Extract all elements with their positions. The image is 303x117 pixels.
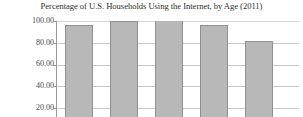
- y-tick-label-100: 100.00: [6, 17, 54, 25]
- bar-5: [245, 41, 273, 117]
- chart-figure: Percentage of U.S. Households Using the …: [0, 0, 303, 117]
- bar-1: [65, 25, 93, 117]
- y-tick-label-60: 60.00: [6, 60, 54, 68]
- bar-3: [155, 21, 183, 117]
- y-tick-label-20: 20.00: [6, 104, 54, 112]
- y-tick-label-80: 80.00: [6, 39, 54, 47]
- y-tick-label-40: 40.00: [6, 82, 54, 90]
- plot-area: [57, 21, 299, 117]
- chart-title: Percentage of U.S. Households Using the …: [0, 1, 303, 11]
- bar-2: [110, 21, 138, 117]
- bar-4: [200, 25, 228, 117]
